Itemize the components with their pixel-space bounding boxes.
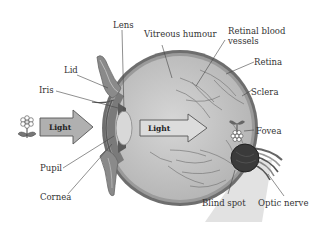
- label-retinal-blood-vessels-line1: Retinal blood: [228, 26, 286, 36]
- label-cornea: Cornea: [40, 192, 71, 202]
- label-retinal-blood-vessels-line2: vessels: [227, 36, 259, 46]
- light-arrow-inside-label: Light: [148, 124, 171, 133]
- flower-icon: [18, 116, 36, 138]
- label-retina: Retina: [254, 57, 282, 67]
- label-iris: Iris: [39, 85, 54, 95]
- eye-diagram-svg: Light Light Lens Lid Iris Pupil Cornea V…: [0, 0, 323, 225]
- label-lens: Lens: [113, 20, 134, 30]
- label-pupil: Pupil: [40, 163, 62, 173]
- eye-diagram: Light Light Lens Lid Iris Pupil Cornea V…: [0, 0, 323, 225]
- label-optic-nerve: Optic nerve: [258, 198, 308, 208]
- label-fovea: Fovea: [256, 126, 281, 136]
- light-arrow-outside-label: Light: [49, 123, 72, 132]
- label-lid: Lid: [64, 65, 78, 75]
- label-vitreous-humour: Vitreous humour: [143, 29, 217, 39]
- blind-spot: [231, 144, 259, 172]
- label-blind-spot: Blind spot: [202, 198, 246, 208]
- label-sclera: Sclera: [251, 87, 278, 97]
- lens: [116, 111, 132, 145]
- lower-lid: [100, 150, 118, 196]
